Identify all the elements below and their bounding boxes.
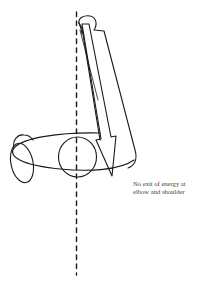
annotation-line-1: No exit of energy at xyxy=(133,180,205,188)
annotation-text: No exit of energy at elbow and shoulder xyxy=(133,180,205,196)
arrow-shaft-inner xyxy=(80,30,98,100)
force-arrow xyxy=(82,24,116,176)
annotation-line-2: elbow and shoulder xyxy=(133,188,205,196)
shoulder-joint-circle xyxy=(59,137,97,177)
diagram-canvas xyxy=(0,0,205,294)
arm-outline xyxy=(79,16,136,168)
arm-left-edge xyxy=(79,23,100,140)
left-small-oval xyxy=(7,141,37,185)
